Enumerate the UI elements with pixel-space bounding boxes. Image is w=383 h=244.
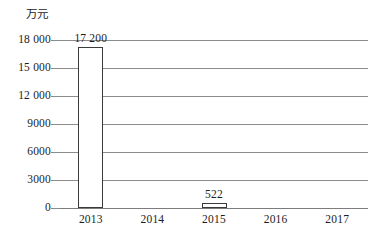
- bar-2015: [202, 203, 227, 208]
- y-axis-tick: [51, 152, 60, 153]
- data-label-2013: 17 200: [74, 33, 107, 45]
- y-axis-tick: [51, 40, 60, 41]
- gridline: [60, 96, 368, 97]
- y-axis-tick-label: 6000: [27, 146, 51, 158]
- y-axis-tick: [51, 124, 60, 125]
- y-axis-tick: [51, 96, 60, 97]
- plot-area: [60, 40, 368, 208]
- y-axis-tick: [51, 180, 60, 181]
- bar-2013: [78, 47, 103, 208]
- data-label-2015: 522: [205, 189, 223, 201]
- gridline: [60, 124, 368, 125]
- x-axis-label-2014: 2014: [140, 214, 164, 226]
- y-axis-unit-label: 万元: [26, 9, 48, 21]
- gridline: [60, 208, 368, 209]
- bar-chart-figure: 万元 030006000900012 00015 00018 000 17 20…: [0, 0, 383, 244]
- y-axis-tick-label: 3000: [27, 174, 51, 186]
- y-axis-tick-label: 15 000: [18, 62, 51, 74]
- x-axis-label-2016: 2016: [264, 214, 288, 226]
- x-axis-label-2013: 2013: [79, 214, 103, 226]
- gridline: [60, 152, 368, 153]
- y-axis-tick-label: 18 000: [18, 34, 51, 46]
- gridline: [60, 180, 368, 181]
- y-axis-tick-label: 12 000: [18, 90, 51, 102]
- x-axis-label-2015: 2015: [202, 214, 226, 226]
- gridline: [60, 68, 368, 69]
- y-axis-tick: [51, 68, 60, 69]
- y-axis-tick: [51, 208, 60, 209]
- y-axis-tick-label: 9000: [27, 118, 51, 130]
- x-axis-label-2017: 2017: [325, 214, 349, 226]
